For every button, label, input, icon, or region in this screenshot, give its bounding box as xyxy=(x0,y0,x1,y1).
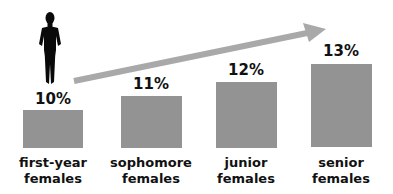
trend-arrow-icon xyxy=(74,23,326,81)
category-line1: first-year xyxy=(3,155,103,171)
category-label-first-year: first-year females xyxy=(3,155,103,187)
bar-junior xyxy=(216,82,277,148)
value-label-first-year: 10% xyxy=(18,90,88,108)
bar-senior xyxy=(311,64,372,147)
category-line1: junior xyxy=(196,155,296,171)
category-line1: sophomore xyxy=(101,155,201,171)
bar-first-year xyxy=(23,110,83,148)
category-line2: females xyxy=(291,171,391,187)
category-line2: females xyxy=(196,171,296,187)
value-label-junior: 12% xyxy=(211,61,281,79)
bar-sophomore xyxy=(121,96,182,148)
category-label-senior: senior females xyxy=(291,155,391,187)
value-label-senior: 13% xyxy=(306,42,376,60)
category-line1: senior xyxy=(291,155,391,171)
category-line2: females xyxy=(3,171,103,187)
value-label-sophomore: 11% xyxy=(116,75,186,93)
category-line2: females xyxy=(101,171,201,187)
category-label-sophomore: sophomore females xyxy=(101,155,201,187)
category-label-junior: junior females xyxy=(196,155,296,187)
female-silhouette-icon xyxy=(39,12,61,84)
